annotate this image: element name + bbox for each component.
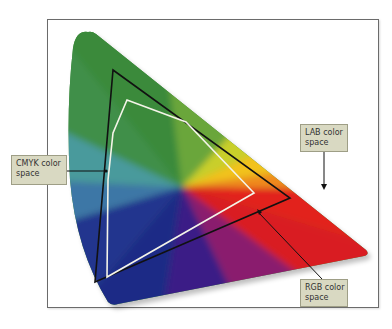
lab-color-space-label: LAB color space — [300, 124, 348, 152]
rgb-color-space-label: RGB color space — [300, 279, 348, 307]
lab-label-line2: space — [305, 138, 343, 148]
cmyk-leader-dot — [104, 169, 107, 172]
cmyk-color-space-label: CMYK color space — [11, 155, 67, 185]
cmyk-label-line1: CMYK color — [16, 159, 62, 169]
rgb-label-line1: RGB color — [305, 283, 343, 293]
lab-label-line1: LAB color — [305, 128, 343, 138]
rgb-label-line2: space — [305, 293, 343, 303]
lab-arrowhead — [321, 184, 327, 190]
cmyk-label-line2: space — [16, 169, 62, 179]
